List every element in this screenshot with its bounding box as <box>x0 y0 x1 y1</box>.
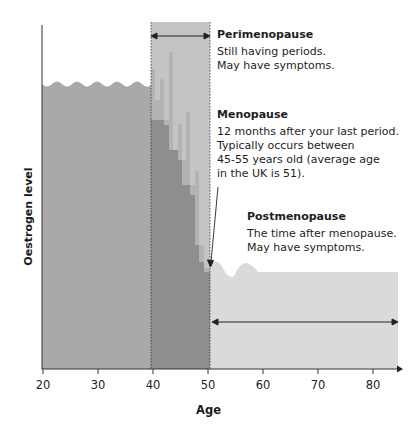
menopause-line-4: in the UK is 51). <box>217 167 399 181</box>
perimenopause-title: Perimenopause <box>217 28 335 42</box>
menopause-line-1: 12 months after your last period. <box>217 125 399 139</box>
x-tick-30: 30 <box>83 378 113 392</box>
menopause-annotation: Menopause 12 months after your last peri… <box>217 108 399 181</box>
perimenopause-line-2: May have symptoms. <box>217 59 335 73</box>
x-tick-50: 50 <box>193 378 223 392</box>
perimenopause-line-1: Still having periods. <box>217 45 335 59</box>
postmenopause-line-2: May have symptoms. <box>247 241 397 255</box>
x-axis-ticks <box>43 369 373 374</box>
menopause-title: Menopause <box>217 108 399 122</box>
x-tick-40: 40 <box>138 378 168 392</box>
x-tick-20: 20 <box>28 378 58 392</box>
menopause-line-3: 45-55 years old (average age <box>217 153 399 167</box>
menopause-line-2: Typically occurs between <box>217 139 399 153</box>
x-axis-arrowhead <box>397 366 403 373</box>
postmenopause-title: Postmenopause <box>247 210 397 224</box>
postmenopause-line-1: The time after menopause. <box>247 227 397 241</box>
x-tick-80: 80 <box>358 378 388 392</box>
postmenopause-area <box>210 261 398 369</box>
perimenopause-annotation: Perimenopause Still having periods. May … <box>217 28 335 73</box>
premenopause-area <box>42 82 151 370</box>
y-axis-label: Oestrogen level <box>22 167 35 267</box>
postmenopause-annotation: Postmenopause The time after menopause. … <box>247 210 397 255</box>
x-axis-label: Age <box>196 403 221 417</box>
x-tick-60: 60 <box>248 378 278 392</box>
x-tick-70: 70 <box>303 378 333 392</box>
